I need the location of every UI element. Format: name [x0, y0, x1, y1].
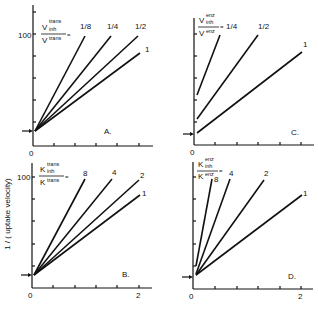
panel-d-intercept-arrow-icon	[182, 275, 193, 279]
svg-text:K: K	[198, 172, 204, 181]
panel-b-label-1: 1	[142, 189, 147, 198]
panel-d-line-4	[196, 179, 230, 274]
panel-d-tick-2: 2	[298, 292, 303, 301]
figure: 1 / ( uptake velocity) 100 0 V trans inh	[0, 0, 318, 312]
panel-c-line-1-4	[197, 35, 220, 95]
panel-c-label-1: 1	[303, 40, 308, 49]
panel-b-line-2	[34, 180, 139, 275]
panel-a-tick-100: 100	[18, 31, 32, 40]
panel-b: 100 0 2 K trans inh K trans = 8 4 2 1 B.	[17, 161, 152, 300]
panel-b-label-4: 4	[112, 168, 117, 177]
panel-b-tick-0: 0	[28, 291, 33, 300]
panel-b-tick-100: 100	[17, 173, 31, 182]
panel-a: 100 0 V trans inh V trans = 1/8 1/4 1/2 …	[18, 5, 153, 158]
panel-b-line-1	[34, 195, 140, 275]
panel-a-tick-0: 0	[29, 149, 34, 158]
svg-text:trans: trans	[49, 35, 61, 41]
panel-d-label-2: 2	[264, 169, 269, 178]
panel-c-tick-0: 0	[190, 148, 195, 157]
svg-text:K: K	[198, 160, 204, 169]
panel-a-line-1-8	[35, 36, 85, 131]
svg-text:inh: inh	[205, 163, 212, 169]
panel-b-legend-title: K trans inh K trans =	[39, 161, 69, 187]
svg-text:trans: trans	[49, 18, 61, 24]
panel-c: 0 V enz inh V enz = 1/4 1/2 1 C.	[183, 12, 314, 157]
svg-text:=: =	[67, 32, 71, 38]
svg-text:enz: enz	[205, 171, 214, 177]
panel-d-line-2	[196, 180, 264, 275]
panel-d-label: D.	[288, 272, 296, 281]
panel-a-label-1-8: 1/8	[80, 22, 92, 31]
panel-c-label-1-2: 1/2	[258, 22, 270, 31]
panel-c-label: C.	[291, 128, 299, 137]
panel-a-label-1: 1	[145, 45, 150, 54]
panel-a-line-1-2	[35, 36, 138, 131]
panel-d-legend-title: K enz inh K enz =	[197, 156, 223, 181]
y-axis-label: 1 / ( uptake velocity)	[3, 178, 12, 250]
svg-text:=: =	[65, 174, 69, 180]
svg-text:V: V	[199, 29, 205, 38]
svg-text:inh: inh	[49, 26, 56, 32]
panel-b-tick-2: 2	[136, 291, 141, 300]
svg-text:V: V	[42, 23, 48, 32]
svg-text:V: V	[42, 36, 48, 45]
svg-text:enz: enz	[205, 156, 214, 162]
svg-text:K: K	[40, 178, 46, 187]
svg-text:K: K	[40, 165, 46, 174]
panel-d: 0 2 K enz inh K enz = 8 4 2 1 D.	[182, 156, 313, 301]
panel-a-label-1-4: 1/4	[107, 22, 119, 31]
panel-d-tick-0: 0	[189, 292, 194, 301]
panel-a-intercept-arrow-icon	[22, 129, 33, 133]
panel-d-label-1: 1	[303, 189, 308, 198]
panel-b-label: B.	[122, 270, 130, 279]
svg-text:V: V	[199, 16, 205, 25]
svg-text:trans: trans	[47, 177, 59, 183]
panel-a-legend-title: V trans inh V trans =	[41, 18, 71, 45]
panel-d-label-8: 8	[214, 175, 219, 184]
panel-b-label-2: 2	[140, 171, 145, 180]
svg-text:inh: inh	[206, 19, 213, 25]
panel-d-label-4: 4	[229, 169, 234, 178]
panel-c-line-1	[197, 52, 302, 133]
svg-text:=: =	[220, 24, 224, 30]
panel-b-line-8	[34, 179, 85, 275]
panel-b-line-4	[34, 179, 112, 275]
svg-text:trans: trans	[47, 161, 59, 167]
panel-c-line-1-2	[197, 35, 258, 119]
panel-c-label-1-4: 1/4	[226, 22, 238, 31]
panel-b-intercept-arrow-icon	[21, 273, 32, 277]
svg-text:=: =	[219, 168, 223, 174]
svg-text:inh: inh	[47, 168, 54, 174]
panel-d-line-1	[196, 195, 302, 275]
panel-c-intercept-arrow-icon	[183, 132, 194, 136]
svg-text:enz: enz	[206, 12, 215, 18]
panel-b-label-8: 8	[83, 169, 88, 178]
panel-a-label-1-2: 1/2	[135, 22, 147, 31]
panel-c-legend-title: V enz inh V enz =	[198, 12, 224, 38]
svg-text:enz: enz	[206, 28, 215, 34]
panel-a-label: A.	[104, 127, 112, 136]
